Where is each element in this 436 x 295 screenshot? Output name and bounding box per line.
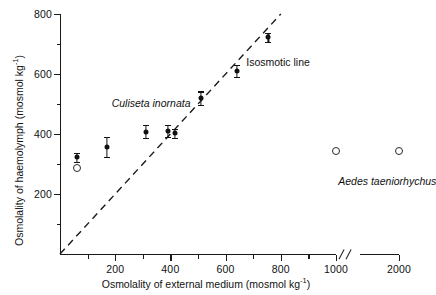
data-point-open-circle [395, 147, 403, 155]
error-bar-cap-lower [265, 42, 271, 43]
error-bar-cap-upper [265, 33, 271, 34]
data-point-filled-circle [172, 131, 177, 136]
annotation-isosmotic-line: Isosmotic line [246, 56, 310, 68]
data-point-filled-circle [266, 35, 271, 40]
error-bar-cap-lower [234, 77, 240, 78]
error-bar-cap-lower [104, 157, 110, 158]
data-point-filled-circle [104, 145, 109, 150]
error-bar-cap-lower [165, 137, 171, 138]
error-bar-cap-lower [143, 138, 149, 139]
data-point-open-circle [73, 164, 81, 172]
data-point-open-circle [332, 147, 340, 155]
error-bar-cap-upper [198, 91, 204, 92]
error-bar-cap-upper [234, 65, 240, 66]
error-bar-cap-upper [104, 137, 110, 138]
annotation-culiseta-inornata: Culiseta inornata [112, 97, 191, 109]
data-point-filled-circle [198, 96, 203, 101]
error-bar-cap-upper [143, 125, 149, 126]
data-point-filled-circle [143, 129, 148, 134]
error-bar-cap-lower [198, 105, 204, 106]
data-point-filled-circle [234, 69, 239, 74]
error-bar-cap-lower [74, 162, 80, 163]
data-point-filled-circle [74, 155, 79, 160]
error-bar-cap-lower [172, 138, 178, 139]
data-point-filled-circle [165, 129, 170, 134]
annotation-aedes-taeniorhychus: Aedes taeniorhychus [338, 175, 436, 187]
error-bar-cap-upper [165, 125, 171, 126]
